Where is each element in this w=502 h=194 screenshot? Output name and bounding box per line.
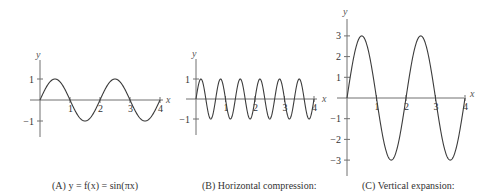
panel-b-y-tick-label: 1 xyxy=(185,74,190,85)
panel-a-x-tick-label: 4 xyxy=(158,103,163,114)
panel-c-y-axis-label: y xyxy=(342,6,348,17)
panel-c-y-tick-label: −2 xyxy=(330,134,341,145)
panel-c-y-tick-label: 2 xyxy=(336,51,341,62)
panel-c-caption: (C) Vertical expansion: xyxy=(362,180,455,192)
panel-b-axes: 12341−1 xyxy=(179,59,317,135)
figure-canvas: 12341−1 y x (A) y = f(x) = sin(πx) 12341… xyxy=(0,0,502,194)
panel-a-y-axis-label: y xyxy=(35,49,41,60)
panel-c-y-tick-label: 3 xyxy=(336,30,341,41)
panel-b-x-axis-label: x xyxy=(321,93,327,104)
panel-a-x-tick-label: 2 xyxy=(98,103,103,114)
panel-b-y-axis-label: y xyxy=(191,48,197,59)
panel-c: 1234321−1−2−3 y x (C) Vertical expansion… xyxy=(330,6,475,192)
panel-b: 12341−1 y x (B) Horizontal compression: xyxy=(179,48,327,192)
panel-a-caption: (A) y = f(x) = sin(πx) xyxy=(52,180,138,192)
panel-a: 12341−1 y x (A) y = f(x) = sin(πx) xyxy=(23,49,171,192)
panel-c-x-axis-label: x xyxy=(469,88,475,99)
panel-b-y-tick-label: −1 xyxy=(179,114,190,125)
panel-c-y-tick-label: −3 xyxy=(330,155,341,166)
panel-c-y-tick-label: 1 xyxy=(336,72,341,83)
panel-a-x-axis-label: x xyxy=(165,94,171,105)
panel-a-axes: 12341−1 xyxy=(23,60,163,137)
panel-a-y-tick-label: −1 xyxy=(23,116,34,127)
panel-a-y-tick-label: 1 xyxy=(29,74,34,85)
panel-b-caption: (B) Horizontal compression: xyxy=(202,180,316,192)
panel-c-axes: 1234321−1−2−3 xyxy=(330,19,468,176)
panel-c-y-tick-label: −1 xyxy=(330,113,341,124)
